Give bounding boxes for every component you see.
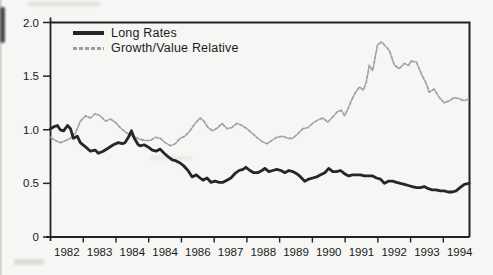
x-tick-label: 1988	[250, 246, 276, 258]
y-tick-label: 1.0	[23, 124, 39, 136]
x-tick-label: 1992	[381, 246, 407, 258]
legend-item-growth-value-relative: Growth/Value Relative	[73, 41, 239, 55]
chart-legend: Long Rates Growth/Value Relative	[73, 26, 239, 55]
y-tick-label: 0	[33, 231, 39, 243]
x-tick-label: 1990	[316, 246, 342, 258]
x-tick-label: 1982	[54, 246, 80, 258]
x-tick-label: 1984	[120, 246, 146, 258]
x-tick-label: 1994	[447, 246, 473, 258]
legend-item-long-rates: Long Rates	[73, 26, 239, 40]
long-rates-line-swatch	[73, 31, 104, 35]
legend-label-long-rates: Long Rates	[111, 26, 177, 40]
series-line-long-rates	[51, 126, 470, 193]
scanned-chart-page: 00.51.01.52.0198219831984198419861987198…	[0, 0, 493, 275]
x-tick-label: 1984	[152, 246, 178, 258]
x-tick-label: 1989	[283, 246, 309, 258]
legend-label-growth-value-relative: Growth/Value Relative	[111, 41, 239, 55]
y-tick-label: 2.0	[23, 17, 39, 29]
x-tick-label: 1991	[349, 246, 375, 258]
y-tick-label: 0.5	[23, 177, 39, 189]
x-tick-label: 1986	[185, 246, 211, 258]
x-tick-label: 1983	[87, 246, 113, 258]
x-tick-label: 1987	[218, 246, 244, 258]
growth-value-line-swatch	[73, 47, 104, 50]
series-line-growth-value-relative	[51, 42, 470, 146]
y-tick-label: 1.5	[23, 70, 39, 82]
x-tick-label: 1993	[414, 246, 440, 258]
